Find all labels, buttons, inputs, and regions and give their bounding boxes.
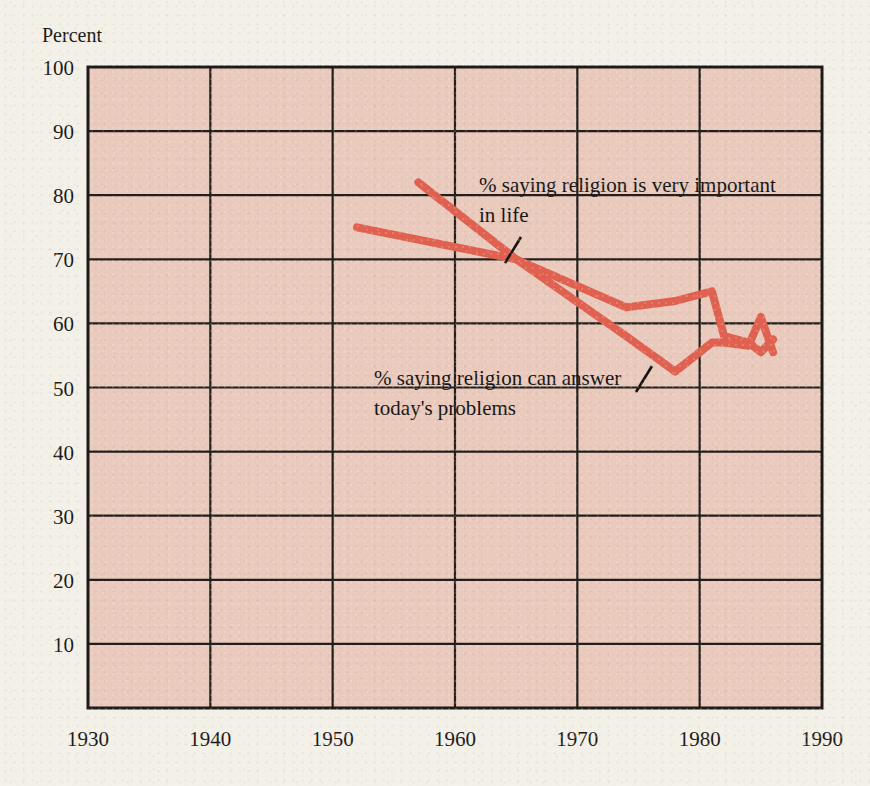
x-tick-label-1960: 1960 [434,727,476,751]
y-tick-label-70: 70 [53,248,74,272]
y-tick-label-10: 10 [53,633,74,657]
y-tick-label-30: 30 [53,505,74,529]
x-tick-label-1980: 1980 [679,727,721,751]
annotation-series1-line2: in life [479,203,529,227]
x-tick-label-1990: 1990 [801,727,843,751]
x-tick-label-1940: 1940 [189,727,231,751]
chart-figure: Percent 102030405060708090100 1930194019… [0,0,870,786]
annotation-series1-line1: % saying religion is very important [479,173,776,197]
annotation-series2-line2: today's problems [374,396,516,420]
x-tick-label-1970: 1970 [556,727,598,751]
y-tick-label-80: 80 [53,184,74,208]
y-tick-label-60: 60 [53,312,74,336]
y-axis-title: Percent [42,24,102,46]
y-tick-label-100: 100 [43,56,75,80]
x-tick-label-1950: 1950 [312,727,354,751]
y-tick-label-40: 40 [53,441,74,465]
x-tick-label-1930: 1930 [67,727,109,751]
annotation-series2-line1: % saying religion can answer [374,366,621,390]
y-tick-label-20: 20 [53,569,74,593]
y-tick-label-90: 90 [53,120,74,144]
y-tick-label-50: 50 [53,377,74,401]
percent-religion-line-chart: Percent 102030405060708090100 1930194019… [0,0,870,786]
